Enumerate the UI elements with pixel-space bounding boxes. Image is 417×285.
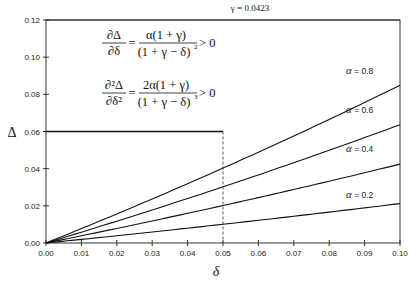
y-tick-label: 0.12 bbox=[24, 16, 40, 25]
y-tick-label: 0.06 bbox=[24, 128, 40, 137]
alpha-value: = 0.4 bbox=[352, 144, 374, 154]
x-tick-label: 0.10 bbox=[392, 249, 408, 258]
y-tick-label: 0.10 bbox=[24, 53, 40, 62]
x-tick-label: 0.02 bbox=[109, 249, 125, 258]
formula-first-derivative-rhs-den: (1 + γ − δ) bbox=[138, 45, 191, 59]
alpha-value: = 0.6 bbox=[352, 105, 374, 115]
chart-title: γ = 0.0423 bbox=[230, 3, 270, 13]
y-tick-label: 0.08 bbox=[24, 90, 40, 99]
x-tick-label: 0.03 bbox=[144, 249, 160, 258]
formula-second-derivative-lhs-num: ∂²Δ bbox=[105, 78, 123, 92]
alpha-value: = 0.2 bbox=[352, 190, 374, 200]
formula-first-derivative-lhs-num: ∂Δ bbox=[107, 28, 121, 42]
series-label: α = 0.6 bbox=[346, 103, 374, 115]
y-axis-label: Δ bbox=[7, 125, 16, 140]
alpha-value: = 0.8 bbox=[352, 66, 374, 76]
formula-second-derivative-rhs-den: (1 + γ − δ) bbox=[138, 95, 191, 109]
y-tick-label: 0.04 bbox=[24, 165, 40, 174]
formula-second-derivative-equals: = bbox=[128, 86, 135, 100]
x-tick-label: 0.01 bbox=[74, 249, 90, 258]
formula-second-derivative-rhs-exp: 3 bbox=[194, 93, 198, 101]
formula-first-derivative-equals: = bbox=[128, 36, 135, 50]
formula-first-derivative-rhs-num: α(1 + γ) bbox=[146, 28, 186, 42]
formula-second-derivative-rhs-num: 2α(1 + γ) bbox=[143, 78, 189, 92]
chart-svg: γ = 0.04230.000.020.040.060.080.100.120.… bbox=[0, 0, 417, 285]
formula-first-derivative-lhs-den: ∂δ bbox=[108, 44, 120, 58]
x-tick-label: 0.08 bbox=[321, 249, 337, 258]
x-tick-label: 0.06 bbox=[251, 249, 267, 258]
formula-first-derivative-rhs-exp: 2 bbox=[194, 43, 198, 51]
x-tick-label: 0.07 bbox=[286, 249, 302, 258]
x-tick-label: 0.09 bbox=[357, 249, 373, 258]
x-tick-label: 0.05 bbox=[215, 249, 231, 258]
series-label: α = 0.4 bbox=[346, 142, 374, 154]
x-axis-label: δ bbox=[213, 264, 220, 279]
y-tick-label: 0.00 bbox=[24, 239, 40, 248]
y-tick-label: 0.02 bbox=[24, 202, 40, 211]
series-label: α = 0.8 bbox=[346, 64, 374, 76]
series-label: α = 0.2 bbox=[346, 188, 374, 200]
formula-second-derivative-tail: > 0 bbox=[199, 86, 215, 100]
formula-second-derivative-lhs-den: ∂δ² bbox=[106, 94, 122, 108]
formula-first-derivative-tail: > 0 bbox=[199, 36, 215, 50]
x-tick-label: 0.00 bbox=[38, 249, 54, 258]
x-tick-label: 0.04 bbox=[180, 249, 196, 258]
